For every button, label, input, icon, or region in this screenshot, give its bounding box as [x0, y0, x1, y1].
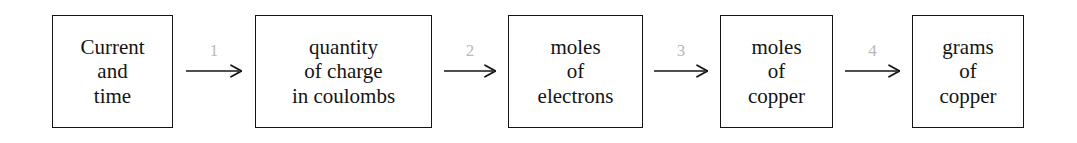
node-text-line: in coulombs	[292, 84, 395, 108]
arrow-step-label: 1	[186, 42, 242, 59]
arrow-step-label: 4	[845, 42, 900, 59]
node-moles-of-electrons: molesofelectrons	[508, 15, 643, 128]
arrow-4: 4	[845, 42, 900, 78]
arrow-2: 2	[444, 42, 496, 78]
node-text-line: copper	[939, 84, 996, 108]
arrow-3: 3	[654, 42, 708, 78]
arrow-right-icon	[186, 64, 242, 78]
node-text-line: moles	[751, 35, 801, 59]
arrow-right-icon	[845, 64, 900, 78]
node-text-line: of charge	[304, 59, 382, 83]
node-grams-of-copper: gramsofcopper	[912, 15, 1024, 128]
node-text-line: grams	[942, 35, 993, 59]
flowchart-diagram: Currentandtimequantityof chargein coulom…	[0, 0, 1077, 143]
node-text-line: moles	[550, 35, 600, 59]
node-text-line: of	[768, 59, 786, 83]
arrow-step-label: 3	[654, 42, 708, 59]
arrow-1: 1	[186, 42, 242, 78]
node-quantity-of-charge: quantityof chargein coulombs	[255, 15, 432, 128]
node-text-line: time	[94, 84, 131, 108]
node-moles-of-copper: molesofcopper	[720, 15, 833, 128]
node-text-line: copper	[748, 84, 805, 108]
arrow-step-label: 2	[444, 42, 496, 59]
node-current-and-time: Currentandtime	[52, 15, 173, 128]
node-text-line: and	[97, 59, 127, 83]
node-text-line: electrons	[538, 84, 614, 108]
node-text-line: Current	[80, 35, 144, 59]
node-text-line: quantity	[309, 35, 378, 59]
arrow-right-icon	[654, 64, 708, 78]
arrow-right-icon	[444, 64, 496, 78]
node-text-line: of	[567, 59, 585, 83]
node-text-line: of	[959, 59, 977, 83]
